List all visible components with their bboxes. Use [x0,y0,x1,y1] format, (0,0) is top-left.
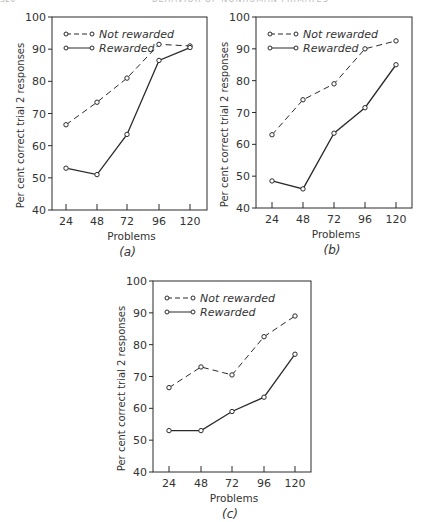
y-tick-label: 60 [236,138,250,151]
series-line-rewarded [169,354,295,430]
data-point-marker [64,123,68,127]
y-tick-label: 100 [126,275,147,288]
legend-label: Rewarded [303,42,359,55]
y-tick-label: 70 [133,371,147,384]
data-point-marker [230,409,234,413]
y-tick-label: 70 [32,108,46,121]
y-tick-label: 90 [133,307,147,320]
data-point-marker [270,133,274,137]
data-point-marker [95,172,99,176]
data-point-marker [394,39,398,43]
legend-marker [90,46,94,50]
y-tick-label: 80 [133,339,147,352]
data-point-marker [188,45,192,49]
x-tick-label: 48 [90,215,104,228]
data-point-marker [199,365,203,369]
data-point-marker [293,314,297,318]
legend-marker [191,296,195,300]
x-tick-label: 96 [152,215,166,228]
x-tick-label: 96 [358,213,372,226]
legend-marker [165,296,169,300]
data-point-marker [125,76,129,80]
data-point-marker [332,131,336,135]
legend-marker [294,46,298,50]
data-point-marker [64,166,68,170]
legend-marker [268,32,272,36]
panel-label: (c) [222,507,238,521]
data-point-marker [270,179,274,183]
y-tick-label: 90 [32,43,46,56]
panel-label: (a) [119,245,136,259]
y-axis-label: Per cent correct trial 2 responses [15,43,26,208]
x-tick-label: 120 [285,477,306,490]
data-point-marker [157,42,161,46]
data-point-marker [363,47,367,51]
y-axis-label: Per cent correct trial 2 responses [219,42,230,207]
data-point-marker [332,82,336,86]
data-point-marker [363,106,367,110]
x-tick-label: 48 [194,477,208,490]
y-tick-label: 60 [32,140,46,153]
legend-label: Not rewarded [200,292,276,305]
x-tick-label: 24 [265,213,279,226]
data-point-marker [301,187,305,191]
data-point-marker [199,428,203,432]
y-tick-label: 80 [236,75,250,88]
x-axis-label: Problems [312,228,360,240]
data-point-marker [262,335,266,339]
data-point-marker [157,58,161,62]
x-axis-label: Problems [210,492,258,504]
y-tick-label: 90 [236,43,250,56]
x-tick-label: 72 [225,477,239,490]
data-point-marker [125,132,129,136]
data-point-marker [167,428,171,432]
data-point-marker [262,395,266,399]
y-tick-label: 40 [236,202,250,215]
x-tick-label: 48 [296,213,310,226]
data-point-marker [230,373,234,377]
legend-label: Not rewarded [99,28,175,41]
y-tick-label: 50 [32,172,46,185]
x-tick-label: 24 [162,477,176,490]
figure: 40506070809010024487296120Problems(a)Per… [0,0,424,522]
legend-marker [268,46,272,50]
legend-marker [294,32,298,36]
data-point-marker [394,63,398,67]
x-tick-label: 120 [386,213,407,226]
legend-label: Rewarded [200,306,256,319]
series-line-not-rewarded [66,44,190,124]
x-tick-label: 72 [327,213,341,226]
legend-marker [90,32,94,36]
x-tick-label: 96 [257,477,271,490]
legend-marker [165,310,169,314]
chart-panel-c: 40506070809010024487296120Problems(c)Per… [116,275,311,521]
chart-panel-b: 40506070809010024487296120Problems(b)Per… [219,11,412,257]
data-point-marker [301,98,305,102]
x-tick-label: 120 [180,215,201,228]
legend-label: Not rewarded [303,28,379,41]
chart-panel-a: 40506070809010024487296120Problems(a)Per… [15,11,207,259]
y-tick-label: 40 [32,204,46,217]
y-tick-label: 50 [236,170,250,183]
legend-marker [64,32,68,36]
y-tick-label: 40 [133,466,147,479]
y-tick-label: 70 [236,107,250,120]
y-tick-label: 100 [25,11,46,24]
x-tick-label: 24 [59,215,73,228]
data-point-marker [293,352,297,356]
data-point-marker [95,100,99,104]
legend-marker [191,310,195,314]
legend-marker [64,46,68,50]
y-tick-label: 100 [229,11,250,24]
data-point-marker [167,385,171,389]
y-axis-label: Per cent correct trial 2 responses [116,306,127,471]
y-tick-label: 60 [133,402,147,415]
legend-label: Rewarded [99,42,155,55]
x-tick-label: 72 [120,215,134,228]
y-tick-label: 80 [32,75,46,88]
x-axis-label: Problems [107,230,155,242]
panel-label: (b) [324,243,341,257]
y-tick-label: 50 [133,434,147,447]
